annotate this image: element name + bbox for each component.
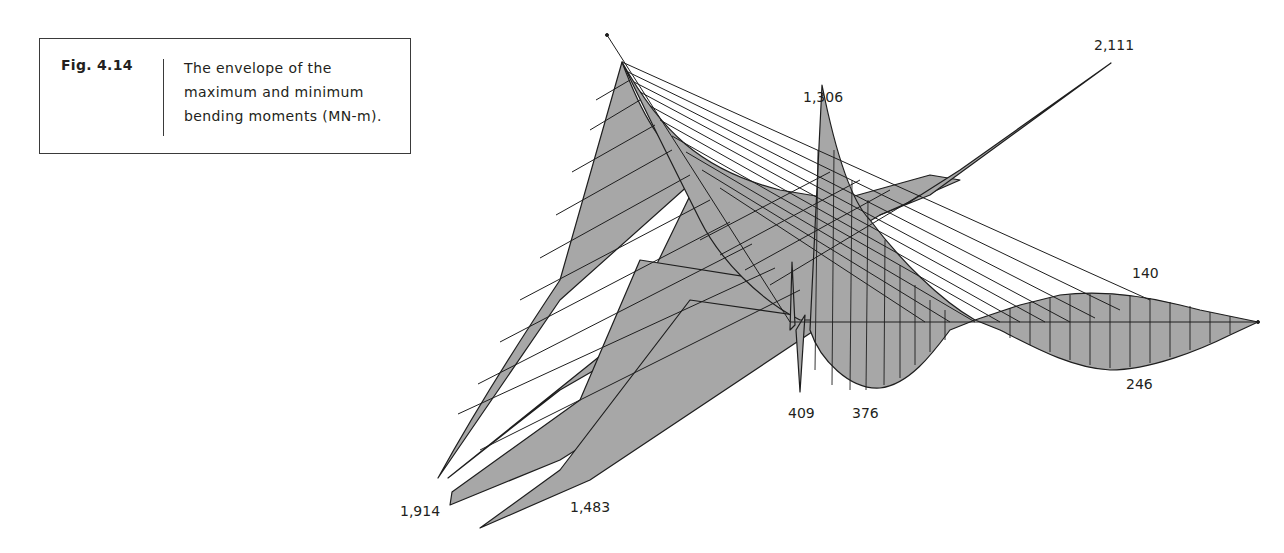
bending-moment-diagram: 1,306 2,111 140 246 409 376 1,914 1,483: [0, 0, 1284, 553]
deck-end-node: [1257, 321, 1260, 324]
label-stay-min-b: 1,483: [570, 499, 610, 515]
label-tower-base-min-a: 409: [788, 405, 815, 421]
label-stay-max: 2,111: [1094, 37, 1134, 53]
main-span-envelope: [975, 293, 1258, 370]
label-stay-min-a: 1,914: [400, 503, 440, 519]
label-tower-base-min-b: 376: [852, 405, 879, 421]
tower-envelope: [810, 85, 975, 388]
label-span-min: 246: [1126, 376, 1153, 392]
tower-top-node: [606, 34, 609, 37]
label-span-max: 140: [1132, 265, 1159, 281]
label-tower-max: 1,306: [803, 89, 843, 105]
